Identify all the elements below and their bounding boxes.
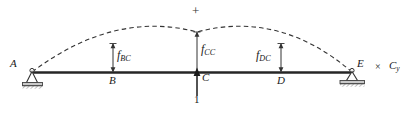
plus-sign: + — [192, 4, 199, 17]
ordinate-line-dc — [278, 43, 285, 73]
support-roller-right — [340, 68, 365, 86]
ordinate-line-cc — [194, 32, 201, 72]
support-label-a: A — [10, 58, 17, 69]
node-label-b: B — [109, 75, 116, 86]
unit-load-label: 1 — [194, 94, 200, 105]
multiplier-reaction-label: Cy — [389, 60, 400, 71]
ordinate-fcc-sub: CC — [204, 48, 215, 57]
node-label-d: D — [277, 75, 285, 86]
ordinate-line-bc — [110, 43, 117, 73]
ordinate-label-fbc: fBC — [117, 49, 131, 61]
multiplier-times-icon: × — [375, 62, 381, 72]
ordinate-fdc-sub: DC — [259, 54, 270, 63]
reaction-subscript: y — [396, 64, 399, 73]
ordinate-label-fcc: fCC — [201, 43, 215, 55]
node-label-c: C — [202, 72, 209, 83]
ordinate-fbc-sub: BC — [120, 54, 130, 63]
influence-line-diagram — [0, 0, 415, 115]
influence-line-curve — [32, 26, 352, 72]
support-label-e: E — [357, 58, 364, 69]
ordinate-label-fdc: fDC — [256, 49, 271, 61]
